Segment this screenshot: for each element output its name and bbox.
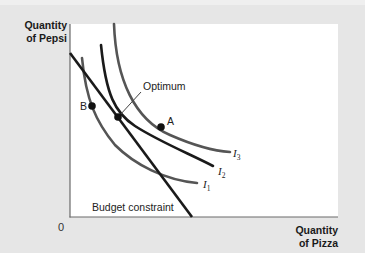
budget-constraint-line — [70, 53, 192, 217]
i2-label: I2 — [217, 165, 226, 180]
optimum-point-marker — [114, 113, 122, 121]
point-a-label: A — [167, 115, 174, 127]
point-a-marker — [157, 123, 165, 131]
indifference-curve-i1 — [82, 58, 197, 183]
i1-label: I1 — [202, 178, 211, 193]
chart-svg: Optimum B A Budget constraint I3 I2 I1 — [0, 0, 365, 253]
point-b-label: B — [80, 100, 87, 112]
point-b-marker — [88, 102, 96, 110]
optimum-label: Optimum — [143, 80, 186, 92]
i3-label: I3 — [232, 147, 241, 162]
budget-constraint-label: Budget constraint — [92, 201, 174, 213]
